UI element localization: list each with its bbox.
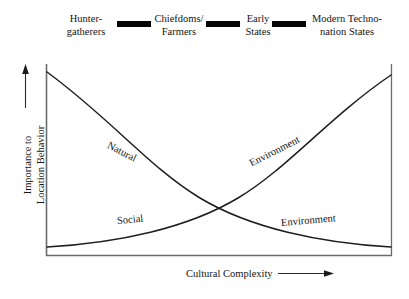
y-axis-direction-arrow	[22, 64, 29, 108]
plot-area	[0, 0, 409, 299]
figure-canvas: Hunter- gatherers Chiefdoms/ Farmers Ear…	[0, 0, 409, 299]
curve-label-social: Social	[117, 213, 144, 226]
curve-environment	[47, 75, 391, 247]
y-axis-title: Importance to Location Behavior	[21, 105, 47, 225]
x-axis-title: Cultural Complexity	[186, 268, 273, 279]
y-axis-title-line2: Location Behavior	[34, 105, 47, 225]
x-axis-direction-arrow	[278, 270, 334, 277]
y-axis-title-line1: Importance to	[21, 105, 34, 225]
curve-natural	[47, 72, 391, 247]
